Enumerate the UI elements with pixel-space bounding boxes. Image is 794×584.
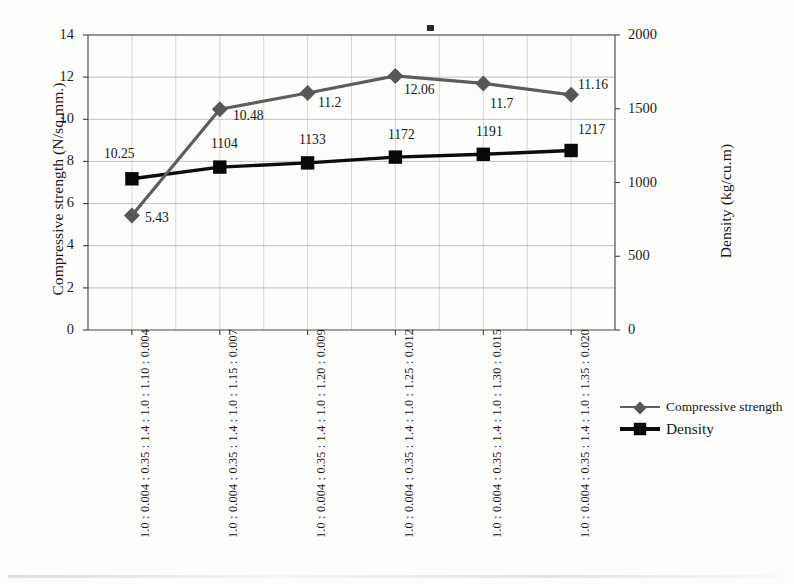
cs-value-label-6: 11.16 <box>578 77 608 93</box>
cs-value-label-4: 12.06 <box>404 82 435 98</box>
cs-value-label-2: 10.48 <box>233 108 264 124</box>
density-value-label-3: 1133 <box>299 132 326 148</box>
stray-ink-speck <box>427 25 434 31</box>
density-value-label-4: 1172 <box>388 127 415 143</box>
right-tick-500: 500 <box>628 247 674 264</box>
chart-legend: Compressive strength Density <box>620 396 782 440</box>
legend-key-compressive-strength <box>620 399 660 415</box>
right-tick-1500: 1500 <box>628 100 674 117</box>
left-tick-4: 4 <box>40 236 74 253</box>
right-axis-ticks <box>615 35 620 330</box>
left-tick-2: 2 <box>40 279 74 296</box>
right-axis-title: Density (kg/cu.m) <box>717 71 735 331</box>
legend-item-density[interactable]: Density <box>620 418 782 440</box>
left-axis-ticks <box>83 35 88 330</box>
left-tick-12: 12 <box>40 68 74 85</box>
density-value-label-6: 1217 <box>578 122 605 138</box>
x-axis-ticks <box>132 330 571 335</box>
cs-value-label-3: 11.2 <box>318 95 341 111</box>
x-category-label-5: 1.0 : 0.004 : 0.35 : 1.4 : 1.0 : 1.30 : … <box>490 329 505 538</box>
density-value-label-2: 1104 <box>211 136 238 152</box>
right-tick-1000: 1000 <box>628 174 674 191</box>
x-category-label-3: 1.0 : 0.004 : 0.35 : 1.4 : 1.0 : 1.20 : … <box>314 329 329 538</box>
cs-value-label-1: 5.43 <box>145 210 169 226</box>
legend-item-compressive-strength[interactable]: Compressive strength <box>620 396 782 418</box>
density-value-label-5: 1191 <box>476 124 503 140</box>
chart-plot-area <box>0 0 794 584</box>
legend-label-compressive-strength: Compressive strength <box>666 399 782 415</box>
left-tick-8: 8 <box>40 152 74 169</box>
left-tick-10: 10 <box>40 110 74 127</box>
diamond-marker-icon <box>633 401 647 419</box>
left-tick-14: 14 <box>40 26 74 43</box>
right-tick-0: 0 <box>628 321 674 338</box>
x-category-label-1: 1.0 : 0.004 : 0.35 : 1.4 : 1.0 : 1.10 : … <box>138 329 153 538</box>
x-category-label-4: 1.0 : 0.004 : 0.35 : 1.4 : 1.0 : 1.25 : … <box>402 329 417 538</box>
x-category-label-6: 1.0 : 0.004 : 0.35 : 1.4 : 1.0 : 1.35 : … <box>578 329 593 538</box>
legend-label-density: Density <box>666 420 714 438</box>
density-value-label-1: 10.25 <box>104 146 135 162</box>
right-tick-2000: 2000 <box>628 26 674 43</box>
square-marker-icon <box>633 422 647 440</box>
left-tick-6: 6 <box>40 194 74 211</box>
chart-figure: Compressive strength (N/sq.mm.) Density … <box>0 0 794 584</box>
vertical-gridlines <box>132 35 571 330</box>
legend-key-density <box>620 421 660 437</box>
left-tick-0: 0 <box>40 321 74 338</box>
x-category-label-2: 1.0 : 0.004 : 0.35 : 1.4 : 1.0 : 1.15 : … <box>226 329 241 538</box>
cs-value-label-5: 11.7 <box>490 96 513 112</box>
scan-edge-smudge <box>8 575 778 578</box>
